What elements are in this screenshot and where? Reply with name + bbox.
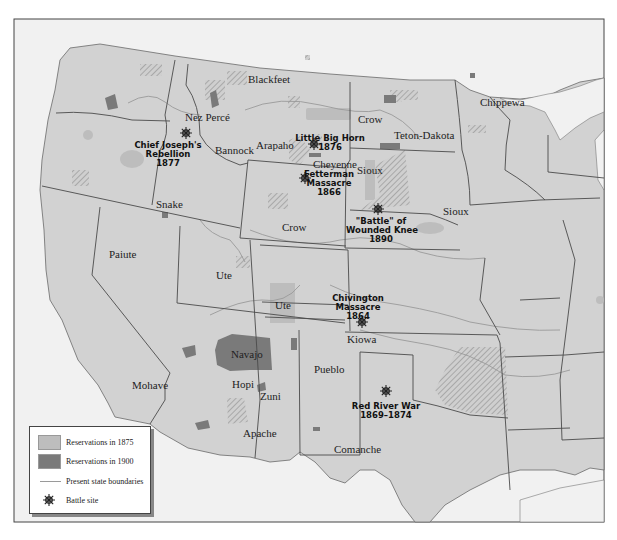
- battle-label: FettermanMassacre1866: [294, 170, 364, 197]
- battle-label: Chief Joseph'sRebellion1877: [133, 141, 203, 168]
- boundary-line-icon: [40, 481, 61, 482]
- tribe-label: Crow: [358, 114, 382, 125]
- tribe-label: Navajo: [231, 349, 263, 360]
- tribe-label: Sioux: [443, 206, 469, 217]
- battle-star-icon: [180, 127, 192, 139]
- tribe-label: Teton-Dakota: [394, 130, 454, 141]
- swatch-1875: [38, 435, 61, 450]
- tribe-label: Pueblo: [314, 364, 345, 375]
- battle-star-icon: [38, 493, 61, 507]
- tribe-label: Snake: [156, 199, 183, 210]
- battle-label: "Battle" ofWounded Knee1890: [346, 217, 416, 244]
- tribe-label: Mohave: [132, 380, 168, 391]
- tribe-label: Chippewa: [480, 97, 525, 108]
- tribe-label: Ute: [216, 270, 232, 281]
- legend-item-boundaries: Present state boundaries: [38, 475, 143, 488]
- legend-item-1900: Reservations in 1900: [38, 454, 134, 469]
- tribe-label: Arapaho: [256, 140, 294, 151]
- battle-label: ChivingtonMassacre1864: [323, 294, 393, 321]
- swatch-1900: [38, 454, 61, 469]
- battle-label: Little Big Horn1876: [295, 134, 365, 152]
- legend-label: Present state boundaries: [66, 477, 143, 486]
- tribe-label: Blackfeet: [248, 74, 290, 85]
- tribe-label: Kiowa: [347, 334, 376, 345]
- legend-label: Reservations in 1875: [66, 438, 134, 447]
- legend-label: Battle site: [66, 496, 98, 505]
- tribe-label: Hopi: [232, 379, 254, 390]
- tribe-label: Comanche: [334, 444, 381, 455]
- legend-item-1875: Reservations in 1875: [38, 435, 134, 450]
- tribe-label: Bannock: [215, 145, 254, 156]
- tribe-label: Crow: [282, 222, 306, 233]
- tribe-label: Apache: [243, 428, 277, 439]
- tribe-label: Zuni: [260, 391, 281, 402]
- legend-item-battle: Battle site: [38, 493, 98, 507]
- legend-label: Reservations in 1900: [66, 457, 134, 466]
- tribe-label: Paiute: [109, 249, 137, 260]
- map-legend: Reservations in 1875 Reservations in 190…: [29, 426, 151, 514]
- tribe-label: Nez Percé: [185, 112, 230, 123]
- battle-label: Red River War1869–1874: [351, 402, 421, 420]
- tribe-label: Ute: [275, 300, 291, 311]
